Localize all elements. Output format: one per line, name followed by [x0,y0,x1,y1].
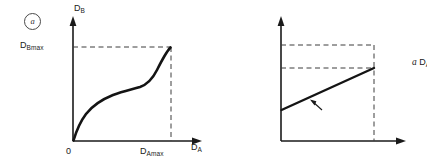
y-tick-label-adamax-plus-b: a DAmax + b [412,57,427,68]
x-tick-label-damax-a: DAmax [140,146,164,157]
panel-b: b DB = a DA + b a DAmax + b b Slope a 0 … [214,0,427,163]
linear-line [282,68,375,110]
x-axis-arrowhead [396,138,406,145]
panel-b-plot [214,0,427,163]
panel-label-a: a [24,13,41,30]
y-tick-label-dbmax: DBmax [20,40,44,51]
sigmoid-curve [74,48,171,141]
figure-container: a DB DBmax 0 DAmax DA b DB [0,0,427,163]
origin-label-a: 0 [66,146,71,156]
y-axis-label-a: DB [74,3,85,14]
y-axis-arrowhead [278,16,285,26]
panel-a: a DB DBmax 0 DAmax DA [0,0,213,163]
y-axis-arrowhead [70,16,77,26]
x-axis-label-a: DA [191,142,202,153]
